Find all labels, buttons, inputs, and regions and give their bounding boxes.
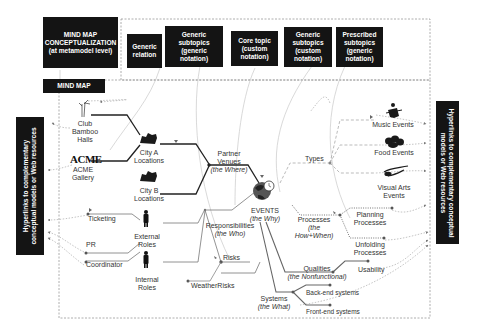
- legend-line: CONCEPTUALIZATION: [45, 39, 117, 47]
- legend-core-topic: Core topic (custom notation): [231, 31, 278, 66]
- legend-line: subtopics: [342, 39, 376, 47]
- node-events-core-topic[interactable]: EVENTS (the Why): [248, 207, 282, 223]
- types-branches: [280, 120, 376, 183]
- node-city-a-locations[interactable]: City A Locations: [133, 149, 165, 165]
- node-label: Club: [70, 120, 100, 128]
- legend-line: subtopics: [178, 39, 209, 47]
- legend-line: subtopics: [292, 39, 323, 47]
- node-label: External: [132, 233, 162, 241]
- city-b-icon: [140, 171, 157, 182]
- node-label: Unfolding: [350, 241, 390, 249]
- legend-line: Generic: [178, 31, 209, 39]
- node-label: Processes: [350, 219, 390, 227]
- node-label: Locations: [133, 157, 165, 165]
- node-label: Visual Arts: [376, 184, 412, 192]
- hyperlinks-left-block[interactable]: Hyperlinks to complementary conceptual m…: [16, 117, 44, 255]
- node-label: Locations: [133, 195, 165, 203]
- node-sublabel: (the What): [254, 303, 294, 311]
- node-pr[interactable]: PR: [86, 241, 96, 249]
- food-icon: [385, 136, 404, 149]
- legend-line: notation): [292, 55, 323, 63]
- node-sublabel: How+When): [291, 232, 337, 240]
- node-ticketing[interactable]: Ticketing: [88, 215, 116, 223]
- legend-mind-map-conceptualization: MIND MAP CONCEPTUALIZATION (at metamodel…: [43, 17, 118, 68]
- node-city-b-locations[interactable]: City B Locations: [133, 187, 165, 203]
- legend-generic-subtopics-custom-notation: Generic subtopics (custom notation): [284, 27, 332, 67]
- legend-line: Generic: [132, 43, 157, 51]
- legend-line: (generic: [178, 47, 209, 55]
- node-label: Responsibilities: [202, 222, 258, 230]
- node-usability[interactable]: Usability: [358, 266, 384, 274]
- node-label: Bamboo: [70, 128, 100, 136]
- legend-line: (custom: [292, 47, 323, 55]
- guitarist-icon: [386, 103, 402, 118]
- node-sublabel: (the: [291, 224, 337, 232]
- node-label: Planning: [350, 211, 390, 219]
- node-label: Events: [376, 192, 412, 200]
- node-label: Partner Venues: [214, 150, 244, 166]
- node-partner-venues[interactable]: Partner Venues (the Where): [206, 150, 252, 174]
- legend-line: (generic: [342, 47, 376, 55]
- legend-line: (at metamodel level): [45, 47, 117, 55]
- node-weather-risks[interactable]: WeatherRisks: [191, 282, 234, 290]
- internal-person-icon: [144, 251, 149, 268]
- node-sublabel: (the Where): [206, 166, 252, 174]
- acme-logo-icon: ACME: [70, 154, 94, 165]
- node-external-roles[interactable]: External Roles: [132, 233, 162, 249]
- external-person-icon: [144, 210, 149, 227]
- node-sublabel: (the Nonfunctional): [284, 273, 350, 281]
- node-types[interactable]: Types: [305, 155, 324, 163]
- node-sublabel: (the Who): [202, 230, 258, 238]
- node-food-events[interactable]: Food Events: [374, 149, 414, 157]
- hyperlinks-right-line: Hyperlinks to complementary conceptual: [448, 108, 456, 237]
- node-systems[interactable]: Systems (the What): [254, 295, 294, 311]
- node-risks[interactable]: Risks: [223, 254, 240, 262]
- legend-line: MIND MAP: [45, 31, 117, 39]
- hyperlinks-right-line: models or Web resources: [440, 108, 448, 237]
- node-label: Processes: [291, 216, 337, 224]
- node-backend-systems[interactable]: Back-end systems: [306, 289, 359, 297]
- node-label: City B: [133, 187, 165, 195]
- node-label: ACME: [70, 166, 96, 174]
- legend-generic-relation: Generic relation: [127, 34, 162, 68]
- hyperlinks-left-line: conceptual models or Web resources: [30, 127, 38, 244]
- node-planning-processes[interactable]: Planning Processes: [350, 211, 390, 227]
- mind-map-label: MIND MAP: [43, 79, 105, 93]
- node-processes[interactable]: Processes (the How+When): [291, 216, 337, 240]
- node-label: Gallery: [70, 174, 96, 182]
- node-label: Halls: [70, 136, 100, 144]
- legend-line: Core topic: [238, 37, 271, 45]
- bamboo-icon: [79, 100, 90, 117]
- legend-prescribed-subtopics: Prescribed subtopics (generic notation): [336, 27, 383, 67]
- node-label: Internal: [132, 276, 162, 284]
- legend-line: Generic: [292, 31, 323, 39]
- legend-line: Prescribed: [342, 31, 376, 39]
- legend-line: relation: [132, 51, 157, 59]
- node-visual-arts-events[interactable]: Visual Arts Events: [376, 184, 412, 200]
- node-label: City A: [133, 149, 165, 157]
- city-a-icon: [140, 133, 157, 144]
- node-label: Roles: [132, 241, 162, 249]
- globe-clock-icon: [253, 181, 274, 200]
- node-internal-roles[interactable]: Internal Roles: [132, 276, 162, 292]
- legend-line: notation): [238, 53, 271, 61]
- node-music-events[interactable]: Music Events: [372, 121, 414, 129]
- legend-line: notation): [178, 55, 209, 63]
- hyperlinks-right-block[interactable]: Hyperlinks to complementary conceptual m…: [436, 101, 459, 244]
- node-coordinator[interactable]: Coordinator: [86, 261, 123, 269]
- legend-line: (custom: [238, 45, 271, 53]
- node-club-bamboo-halls[interactable]: Club Bamboo Halls: [70, 120, 100, 144]
- legend-generic-subtopics-generic-notation: Generic subtopics (generic notation): [165, 26, 223, 67]
- node-label: Systems: [254, 295, 294, 303]
- node-frontend-systems[interactable]: Front-end systems: [306, 308, 360, 316]
- node-label: Roles: [132, 284, 162, 292]
- legend-line: notation): [342, 55, 376, 63]
- node-unfolding-processes[interactable]: Unfolding Processes: [350, 241, 390, 257]
- node-responsibilities[interactable]: Responsibilities (the Who): [202, 222, 258, 238]
- node-qualities[interactable]: Qualities (the Nonfunctional): [284, 265, 350, 281]
- node-label: Qualities: [284, 265, 350, 273]
- node-label: Processes: [350, 249, 390, 257]
- node-acme-gallery[interactable]: ACME Gallery: [70, 166, 96, 182]
- mind-map-frame: [59, 80, 430, 318]
- core-topic-label: EVENTS: [248, 207, 282, 215]
